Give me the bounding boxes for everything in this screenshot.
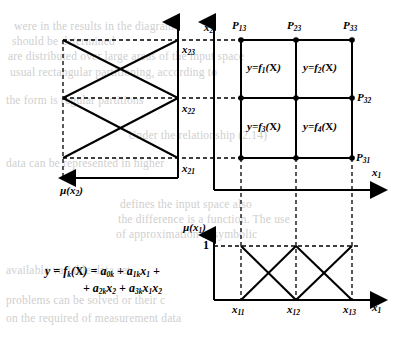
node-P32 [349,95,355,101]
cell-label-f3: y=f3(X) [247,121,281,134]
axis-label-x2-top: x2x2 [204,22,213,35]
cell-label-f1: y=f1(X) [247,62,281,75]
tick-label-x12: x12 [287,304,300,317]
node-P23 [293,37,299,43]
axis-label-x1-mu: x1 [372,302,381,315]
node-P22 [293,95,299,101]
local-model-formula: y = fk(X) = a0k + a1kx1 + + a2kx2 + a3kx… [45,263,162,297]
mu-x2-membership-plot [60,22,352,178]
axis-label-mu-x1: µ(x1) [183,222,206,235]
x1-level-guides [241,158,352,300]
tick-label-x21: x21 [182,163,195,176]
point-label-P32: P32 [357,92,371,105]
point-label-P33: P33 [343,20,357,33]
point-label-P13: P13 [232,20,246,33]
axis-label-mu-x2: µ(x2) [60,185,83,198]
tick-label-x11: x11 [232,304,245,317]
node-P12 [238,95,244,101]
mu-x1-membership-plot [214,235,386,300]
mu-x1-unit-tick-label: 1 [203,239,209,251]
cell-label-f4: y=f4(X) [303,121,337,134]
mu-x2-triangles [63,40,178,158]
node-P13 [238,37,244,43]
point-label-P31: P31 [356,152,370,165]
tick-label-x23: x23 [182,44,195,57]
formula-line-2: + a2kx2 + a3kx1x2 [83,280,162,297]
tick-label-x22: x22 [182,103,195,116]
fuzzy-partition-figure: were in the results in the diagram shoul… [0,0,408,342]
tick-label-x13: x13 [343,304,356,317]
cell-label-f2: y=f2(X) [303,62,337,75]
axis-label-x1-grid: x1 [372,167,381,180]
node-P33 [349,37,355,43]
point-label-P23: P23 [287,20,301,33]
formula-line-1: y = fk(X) = a0k + a1kx1 + [45,263,162,280]
